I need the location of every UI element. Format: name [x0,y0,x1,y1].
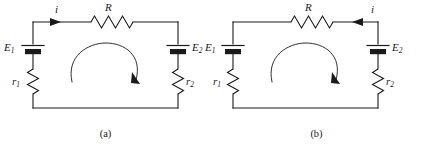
panel-a-caption: (a) [0,128,211,139]
circuit-b-svg [211,0,422,149]
current-label-a: i [55,4,58,15]
loop-arrow-arc-b [271,43,337,82]
resistor-R-label-b: R [305,2,312,13]
resistor-r2-sub-a: 2 [190,80,194,89]
panel-b-caption: (b) [211,128,422,139]
resistor-R-label-a: R [105,2,112,13]
battery-E1-short-plate-a [25,49,41,54]
circuit-diagram-b: i R E1 E2 r1 r2 (b) [211,0,422,149]
emf-E1-base-b: E [205,41,212,53]
resistor-r2-label-a: r2 [186,76,194,89]
figure-root: i R E1 E2 r1 r2 (a) [0,0,423,149]
circuit-a-svg [0,0,211,149]
resistor-r1-b [228,69,239,94]
resistor-r1-sub-b: 1 [217,80,221,89]
emf-E1-sub-a: 1 [11,46,15,55]
resistor-R-a [91,16,133,28]
resistor-r2-sub-b: 2 [390,80,394,89]
emf-E2-base-a: E [192,41,199,53]
current-arrow-head-b [352,18,363,26]
resistor-r1-label-b: r1 [213,76,221,89]
loop-arrow-head-b [331,72,340,84]
loop-arrow-arc-a [71,43,137,82]
resistor-r2-b [373,69,384,94]
emf-E2-sub-a: 2 [199,46,203,55]
resistor-R-b [291,16,333,28]
resistor-r1-sub-a: 1 [16,80,20,89]
emf-E1-label-b: E1 [205,42,215,55]
battery-E2-short-plate-a [170,49,186,54]
resistor-r1-label-a: r1 [12,76,20,89]
current-arrow-head-a [50,18,61,26]
loop-arrow-head-a [131,72,140,84]
resistor-r2-a [173,69,184,94]
emf-E2-base-b: E [392,41,399,53]
emf-E2-label-a: E2 [192,42,202,55]
emf-E1-base-a: E [4,41,11,53]
current-label-b: i [371,4,374,15]
battery-E1-short-plate-b [225,49,241,54]
battery-E2-short-plate-b [370,49,386,54]
resistor-r1-a [28,69,39,94]
resistor-r2-label-b: r2 [386,76,394,89]
emf-E1-sub-b: 1 [212,46,216,55]
emf-E2-sub-b: 2 [399,46,403,55]
emf-E1-label-a: E1 [4,42,14,55]
circuit-diagram-a: i R E1 E2 r1 r2 (a) [0,0,211,149]
emf-E2-label-b: E2 [392,42,402,55]
